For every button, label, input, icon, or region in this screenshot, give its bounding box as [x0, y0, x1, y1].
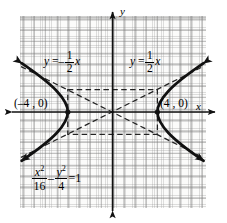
left-asymptote-numerator: 1 [65, 50, 74, 63]
equation-term2-exponent: 2 [62, 164, 66, 173]
hyperbola-equation-label: x216–y24=1 [31, 166, 81, 192]
equation-term1-denominator: 16 [32, 179, 47, 192]
x-axis-label: x [196, 101, 201, 112]
equation-term1-exponent: 2 [40, 164, 44, 173]
right-asymptote-variable: x [155, 55, 160, 67]
equation-term1-numerator: x2 [32, 166, 47, 180]
right-vertex-close-paren: ) [184, 97, 188, 109]
right-asymptote-denominator: 2 [145, 63, 154, 75]
left-asymptote-label: y =–12x [44, 50, 80, 75]
right-asymptote-label: y =12x [130, 50, 160, 75]
equation-rhs: 1 [75, 171, 81, 185]
left-vertex-label: (–4 , 0) [14, 98, 48, 110]
equation-term2-fraction: y24 [55, 166, 67, 192]
left-vertex-value: –4 , 0 [18, 97, 44, 109]
left-vertex-close-paren: ) [44, 97, 48, 109]
right-asymptote-fraction: 12 [145, 50, 154, 75]
left-asymptote-sign: – [58, 55, 64, 67]
left-asymptote-variable: x [75, 55, 80, 67]
right-vertex-value: 4 , 0 [164, 97, 184, 109]
equation-term2-numerator: y2 [55, 166, 67, 180]
equation-operator: – [48, 171, 54, 185]
left-asymptote-denominator: 2 [65, 63, 74, 75]
left-asymptote-fraction: 12 [65, 50, 74, 75]
y-axis-label: y [120, 6, 125, 17]
left-asymptote-lhs: y [44, 55, 49, 67]
hyperbola-graph-figure: y x (–4 , 0) (4 , 0) y =–12x y =12x x216… [0, 0, 227, 223]
right-vertex-label: (4 , 0) [160, 98, 188, 110]
right-asymptote-numerator: 1 [145, 50, 154, 63]
vertex-point-left [65, 109, 70, 114]
equation-term2-denominator: 4 [55, 179, 67, 192]
right-asymptote-equals: = [138, 55, 145, 67]
vertex-point-right [155, 109, 160, 114]
right-asymptote-lhs: y [130, 55, 135, 67]
equation-term1-fraction: x216 [32, 166, 47, 192]
